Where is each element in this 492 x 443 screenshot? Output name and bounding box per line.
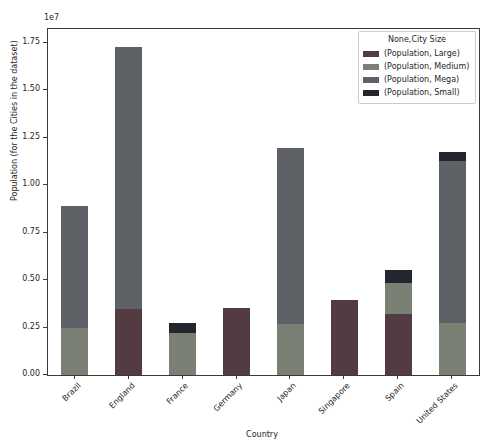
legend-entry: (Population, Medium) (363, 60, 471, 73)
bar-segment (331, 300, 358, 375)
legend-entry-label: (Population, Medium) (384, 62, 469, 71)
bar-segment (439, 161, 466, 323)
y-tick-label: 1.75 (16, 38, 40, 46)
bar-segment (115, 309, 142, 375)
legend-entry: (Population, Small) (363, 86, 471, 99)
legend-entry-label: (Population, Mega) (384, 75, 459, 84)
y-axis-label: Population (for the Cities in the datase… (10, 40, 19, 201)
bar-segment (169, 333, 196, 375)
legend-entry-label: (Population, Large) (384, 49, 460, 58)
bar-segment (439, 323, 466, 375)
bar-segment (277, 148, 304, 324)
bar-segment (61, 206, 88, 328)
legend-swatch-icon (363, 64, 379, 70)
legend-entry: (Population, Large) (363, 47, 471, 60)
legend-title: None,City Size (363, 35, 471, 45)
x-tick-mark (128, 375, 129, 379)
x-tick-label: Singapore (316, 381, 351, 416)
bar-segment (439, 152, 466, 161)
y-tick-mark (43, 327, 47, 328)
x-tick-mark (182, 375, 183, 379)
x-tick-label: Brazil (60, 381, 82, 403)
y-tick-label: 0.00 (16, 370, 40, 378)
x-tick-label: Spain (383, 381, 405, 403)
y-tick-label: 1.25 (16, 133, 40, 141)
legend-entry-label: (Population, Small) (384, 88, 460, 97)
bar-segment (61, 328, 88, 375)
bar-segment (277, 324, 304, 375)
bar-segment (385, 314, 412, 375)
x-tick-mark (74, 375, 75, 379)
x-tick-label: United States (415, 381, 460, 426)
bar-segment (115, 47, 142, 309)
y-tick-mark (43, 374, 47, 375)
x-tick-label: Japan (275, 381, 297, 403)
x-tick-mark (236, 375, 237, 379)
x-tick-label: England (107, 381, 136, 410)
legend: None,City Size (Population, Large)(Popul… (358, 31, 476, 104)
x-tick-label: France (165, 381, 190, 406)
y-tick-mark (43, 89, 47, 90)
x-tick-label: Germany (212, 381, 244, 413)
y-tick-label: 0.75 (16, 228, 40, 236)
legend-entry: (Population, Mega) (363, 73, 471, 86)
bar-segment (385, 270, 412, 283)
legend-swatch-icon (363, 51, 379, 57)
y-tick-mark (43, 279, 47, 280)
y-tick-label: 0.25 (16, 323, 40, 331)
y-tick-label: 1.00 (16, 180, 40, 188)
y-tick-mark (43, 42, 47, 43)
bar-segment (385, 283, 412, 314)
x-tick-mark (397, 375, 398, 379)
y-tick-label: 1.50 (16, 85, 40, 93)
x-tick-mark (451, 375, 452, 379)
y-tick-mark (43, 137, 47, 138)
legend-swatch-icon (363, 90, 379, 96)
y-tick-label: 0.50 (16, 275, 40, 283)
y-tick-mark (43, 184, 47, 185)
figure: 1e7 Population (for the Cities in the da… (0, 0, 492, 443)
x-tick-mark (343, 375, 344, 379)
x-tick-mark (289, 375, 290, 379)
y-axis-offset-text: 1e7 (44, 13, 59, 22)
legend-swatch-icon (363, 77, 379, 83)
bar-segment (223, 308, 250, 375)
x-axis-label: Country (0, 430, 492, 439)
bar-segment (169, 323, 196, 333)
y-tick-mark (43, 232, 47, 233)
legend-entries: (Population, Large)(Population, Medium)(… (363, 47, 471, 99)
